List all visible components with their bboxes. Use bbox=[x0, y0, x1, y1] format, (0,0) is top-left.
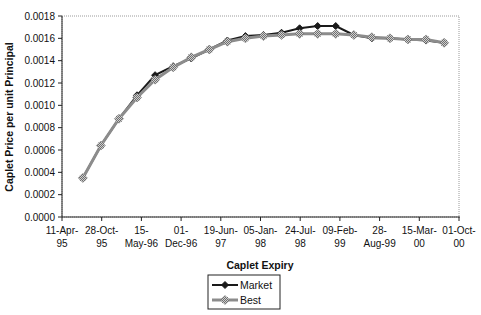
y-tick-label: 0.0018 bbox=[24, 11, 55, 22]
x-axis-title: Caplet Expiry bbox=[226, 259, 293, 271]
y-axis-title: Caplet Price per unit Principal bbox=[3, 42, 15, 191]
data-point-best-core bbox=[170, 64, 176, 70]
data-point-best-core bbox=[333, 31, 339, 37]
data-point-best-core bbox=[152, 77, 158, 83]
x-tick-label-line1: 01- bbox=[174, 225, 188, 236]
x-tick-label-line2: 97 bbox=[215, 238, 227, 249]
y-axis: 0.00000.00020.00040.00060.00080.00100.00… bbox=[24, 11, 62, 223]
x-tick-label-line2: 95 bbox=[96, 238, 108, 249]
data-point-best-core bbox=[116, 116, 122, 122]
x-tick-label-line1: 24-Jul- bbox=[285, 225, 316, 236]
y-tick-label: 0.0016 bbox=[24, 33, 55, 44]
x-tick-label: 01-Oct-00 bbox=[442, 225, 475, 249]
x-tick-label-line2: 98 bbox=[255, 238, 267, 249]
x-tick-label-line1: 05-Jan- bbox=[244, 225, 278, 236]
x-tick-label-line2: May-96 bbox=[125, 238, 159, 249]
x-tick-label-line1: 11-Apr- bbox=[46, 225, 79, 236]
x-tick-label-line1: 15-Mar- bbox=[402, 225, 437, 236]
legend-label: Best bbox=[240, 294, 261, 306]
x-tick-label-line1: 19-Jun- bbox=[204, 225, 238, 236]
y-tick-label: 0.0008 bbox=[24, 122, 55, 133]
x-tick-label-line2: 98 bbox=[295, 238, 307, 249]
x-tick-label: 15-May-96 bbox=[125, 225, 159, 249]
x-tick-label: 24-Jul-98 bbox=[285, 225, 316, 249]
x-tick-label: 19-Jun-97 bbox=[204, 225, 238, 249]
x-tick-label: 09-Feb-99 bbox=[322, 225, 357, 249]
data-point-best-core bbox=[441, 40, 447, 46]
x-tick-label: 28-Aug-99 bbox=[363, 225, 396, 249]
x-tick-label-line1: 09-Feb- bbox=[322, 225, 357, 236]
x-tick-label: 28-Oct-95 bbox=[85, 225, 118, 249]
x-tick-label-line1: 01-Oct- bbox=[442, 225, 475, 236]
data-point-best-core bbox=[423, 36, 429, 42]
data-point-best-core bbox=[279, 32, 285, 38]
data-point-best-core bbox=[387, 35, 393, 41]
data-point-best-core bbox=[369, 34, 375, 40]
x-tick-label-line1: 15- bbox=[134, 225, 148, 236]
x-tick-label-line1: 28-Oct- bbox=[85, 225, 118, 236]
data-point-best-core bbox=[188, 54, 194, 60]
x-tick-label: 11-Apr-95 bbox=[46, 225, 79, 249]
x-tick-label: 01-Dec-96 bbox=[165, 225, 198, 249]
data-point-best-core bbox=[98, 143, 104, 149]
x-tick-label-line2: Dec-96 bbox=[165, 238, 198, 249]
x-tick-label: 05-Jan-98 bbox=[244, 225, 278, 249]
data-point-best-core bbox=[260, 33, 266, 39]
data-point-best-core bbox=[134, 95, 140, 101]
legend: MarketBest bbox=[208, 275, 280, 309]
y-tick-label: 0.0006 bbox=[24, 145, 55, 156]
data-point-best-core bbox=[351, 32, 357, 38]
x-tick-label-line2: 99 bbox=[334, 238, 346, 249]
y-tick-label: 0.0004 bbox=[24, 167, 55, 178]
y-tick-label: 0.0000 bbox=[24, 212, 55, 223]
y-tick-label: 0.0002 bbox=[24, 189, 55, 200]
data-point-best-core bbox=[315, 31, 321, 37]
data-point-best-core bbox=[405, 36, 411, 42]
data-point-best-core bbox=[80, 175, 86, 181]
caplet-price-chart: 0.00000.00020.00040.00060.00080.00100.00… bbox=[0, 0, 481, 315]
x-tick-label-line2: 95 bbox=[56, 238, 68, 249]
x-tick-label-line1: 28- bbox=[372, 225, 386, 236]
x-tick-label-line2: 00 bbox=[453, 238, 465, 249]
x-axis: 11-Apr-9528-Oct-9515-May-9601-Dec-9619-J… bbox=[46, 217, 476, 249]
x-tick-label-line2: 00 bbox=[414, 238, 426, 249]
y-tick-label: 0.0012 bbox=[24, 78, 55, 89]
y-tick-label: 0.0010 bbox=[24, 100, 55, 111]
data-point-best-core bbox=[224, 39, 230, 45]
data-point-best-core bbox=[242, 35, 248, 41]
x-tick-label-line2: Aug-99 bbox=[363, 238, 396, 249]
y-tick-label: 0.0014 bbox=[24, 55, 55, 66]
legend-label: Market bbox=[240, 279, 272, 291]
x-tick-label: 15-Mar-00 bbox=[402, 225, 437, 249]
legend-marker-core bbox=[222, 297, 228, 303]
data-point-best-core bbox=[297, 31, 303, 37]
data-point-best-core bbox=[206, 47, 212, 53]
